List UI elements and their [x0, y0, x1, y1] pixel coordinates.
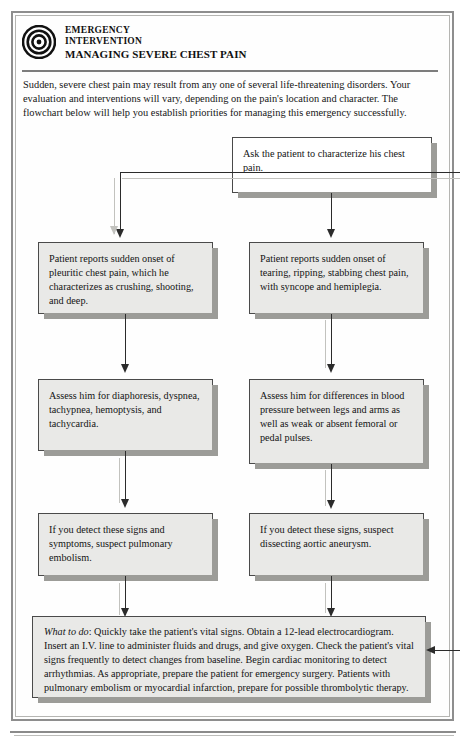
header-line-intervention: INTERVENTION	[65, 36, 247, 47]
flow-box-right-suspect[interactable]: If you detect these signs, suspect disse…	[249, 513, 424, 576]
flow-box-left-suspect-text: If you detect these signs and symptoms, …	[49, 524, 173, 563]
box-shadow-right	[212, 519, 218, 581]
connector-left-assess-to-suspect	[125, 451, 126, 503]
page-bottom-rule-secondary	[14, 735, 454, 736]
connector-start-to-left-vertical	[120, 172, 121, 234]
connector-left-symptom-to-assess	[125, 314, 126, 368]
flow-box-left-symptom[interactable]: Patient reports sudden onset of pleuriti…	[38, 242, 213, 314]
connector-left-assess-to-suspect-ghost	[119, 458, 120, 503]
connector-right-suspect-to-outcome-ghost	[325, 583, 326, 613]
box-shadow-bottom	[44, 313, 218, 319]
box-shadow-right	[212, 248, 218, 319]
box-shadow-bottom	[38, 697, 431, 703]
connector-start-to-right-branch	[331, 193, 332, 233]
bullseye-target-icon	[22, 25, 56, 59]
box-shadow-right	[425, 622, 431, 703]
flow-box-ask-patient-text: Ask the patient to characterize his ches…	[243, 148, 405, 173]
header-divider	[22, 70, 438, 72]
header-title-block: EMERGENCY INTERVENTION MANAGING SEVERE C…	[65, 24, 247, 61]
page-title: MANAGING SEVERE CHEST PAIN	[65, 48, 247, 61]
connector-start-to-left-horizontal-ghost	[122, 178, 432, 179]
flow-box-right-assess-text: Assess him for differences in blood pres…	[260, 390, 404, 443]
flow-box-ask-patient[interactable]: Ask the patient to characterize his ches…	[232, 137, 432, 193]
arrowhead-start-to-right-branch	[327, 229, 335, 238]
intro-paragraph: Sudden, severe chest pain may result fro…	[23, 78, 437, 121]
connector-start-right-offpage-ghost	[432, 178, 460, 179]
box-shadow-bottom	[238, 192, 437, 198]
connector-start-right-offpage	[432, 172, 460, 173]
flow-box-left-suspect[interactable]: If you detect these signs and symptoms, …	[38, 513, 213, 576]
arrowhead-start-to-left-branch-ghost	[110, 226, 118, 235]
box-shadow-bottom	[255, 463, 429, 469]
connector-right-symptom-to-assess	[331, 314, 332, 368]
flow-box-what-to-do-text: Quickly take the patient's vital signs. …	[44, 626, 414, 693]
header-line-emergency: EMERGENCY	[65, 25, 247, 36]
connector-start-to-left-horizontal	[120, 172, 432, 173]
flow-box-left-assess-text: Assess him for diaphoresis, dyspnea, tac…	[49, 390, 200, 429]
page-bottom-rule-primary	[10, 731, 456, 733]
box-shadow-bottom	[44, 450, 218, 456]
box-shadow-right	[423, 248, 429, 319]
page-header: EMERGENCY INTERVENTION MANAGING SEVERE C…	[22, 24, 442, 61]
connector-right-assess-to-suspect-ghost	[325, 470, 326, 506]
flow-box-right-symptom[interactable]: Patient reports sudden onset of tearing,…	[249, 242, 424, 314]
flow-box-left-symptom-text: Patient reports sudden onset of pleuriti…	[49, 253, 194, 306]
arrowhead-left-assess-to-suspect	[121, 499, 129, 508]
box-shadow-right	[212, 385, 218, 456]
flow-box-right-symptom-text: Patient reports sudden onset of tearing,…	[260, 253, 409, 292]
arrowhead-outcome-incoming	[426, 646, 435, 654]
flow-box-right-assess[interactable]: Assess him for differences in blood pres…	[249, 379, 424, 464]
connector-right-symptom-to-assess-ghost	[325, 320, 326, 368]
flow-box-right-suspect-text: If you detect these signs, suspect disse…	[260, 524, 394, 549]
connector-outcome-from-offpage	[432, 650, 460, 651]
flow-box-what-to-do[interactable]: What to do: Quickly take the patient's v…	[32, 616, 426, 698]
box-shadow-right	[423, 519, 429, 581]
page-canvas: EMERGENCY INTERVENTION MANAGING SEVERE C…	[0, 0, 460, 749]
box-shadow-bottom	[255, 575, 429, 581]
flow-box-left-assess[interactable]: Assess him for diaphoresis, dyspnea, tac…	[38, 379, 213, 451]
arrowhead-right-symptom-to-assess	[327, 364, 335, 373]
box-shadow-right	[423, 385, 429, 469]
flow-box-what-to-do-lead: What to do	[44, 626, 89, 637]
box-shadow-bottom	[44, 575, 218, 581]
box-shadow-right	[431, 143, 437, 198]
arrowhead-left-symptom-to-assess	[121, 364, 129, 373]
connector-left-suspect-to-outcome-ghost	[119, 583, 120, 615]
arrowhead-right-assess-to-suspect	[327, 500, 335, 509]
box-shadow-bottom	[255, 313, 429, 319]
